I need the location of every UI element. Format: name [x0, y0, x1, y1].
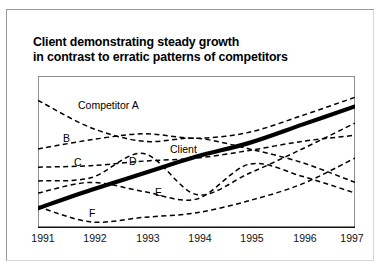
series-label-e: E	[155, 186, 162, 198]
series-label-d: D	[129, 155, 137, 167]
series-label-competitor-a: Competitor A	[78, 99, 139, 111]
page-title: Client demonstrating steady growth in co…	[33, 35, 353, 64]
x-tick-1991: 1991	[31, 232, 54, 244]
x-tick-1996: 1996	[293, 232, 316, 244]
x-axis-labels: 1991199219931994199519961997	[0, 232, 381, 248]
series-label-b: B	[63, 132, 70, 144]
title-line-2: in contrast to erratic patterns of compe…	[33, 50, 353, 65]
chart-page: Client demonstrating steady growth in co…	[0, 0, 381, 273]
x-tick-1995: 1995	[240, 232, 263, 244]
series-label-client: Client	[170, 143, 197, 155]
series-label-c: C	[74, 156, 82, 168]
title-line-1: Client demonstrating steady growth	[33, 35, 353, 50]
x-tick-1992: 1992	[83, 232, 106, 244]
series-label-f: F	[89, 207, 95, 219]
x-tick-1997: 1997	[340, 232, 363, 244]
x-tick-1994: 1994	[188, 232, 211, 244]
x-tick-1993: 1993	[136, 232, 159, 244]
